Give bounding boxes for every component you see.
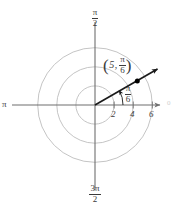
fraction-pi-over-6: π 6 (125, 84, 132, 104)
axis-label-pi: π (2, 100, 7, 109)
polar-coordinate-figure: π 2 π 3π 2 2 4 6 π 6 ( 5 , π 6 ) (0, 0, 173, 210)
radial-tick-label-6: 6 (149, 110, 154, 119)
angle-label-pi-over-6: π 6 (121, 84, 135, 104)
radial-tick-label-2: 2 (111, 110, 116, 119)
axis-label-bottom-denominator: 2 (89, 195, 100, 204)
close-paren: ) (126, 56, 132, 73)
axis-label-top-numerator: π (92, 8, 99, 17)
axis-label-zero: 0 (167, 100, 171, 107)
fraction-3pi-over-2: 3π 2 (89, 184, 100, 204)
polar-plot-svg (0, 0, 173, 210)
angle-numerator: π (125, 84, 132, 93)
axis-label-top-denominator: 2 (92, 19, 99, 28)
radial-tick-label-4: 4 (130, 110, 135, 119)
open-paren: ( (103, 56, 109, 73)
axis-label-pi-over-2: π 2 (82, 8, 108, 28)
plotted-point (135, 79, 140, 84)
axis-label-bottom-numerator: 3π (89, 184, 100, 193)
fraction-pi-over-2: π 2 (92, 8, 99, 28)
point-coordinate-label: ( 5 , π 6 ) (103, 55, 131, 75)
angle-denominator: 6 (125, 95, 132, 104)
axis-label-3pi-over-2: 3π 2 (80, 184, 110, 204)
